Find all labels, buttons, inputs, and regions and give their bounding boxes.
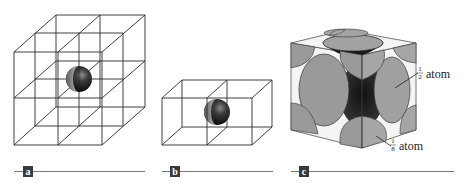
half-atom-label: 1 2 atom <box>417 65 451 81</box>
panel-c-rule <box>291 171 454 172</box>
svg-text:atom: atom <box>399 139 424 153</box>
panel-b-shared-atom <box>204 99 230 125</box>
svg-text:1: 1 <box>418 65 422 73</box>
svg-text:2: 2 <box>418 73 422 81</box>
svg-text:1: 1 <box>391 137 395 145</box>
panel-a-rule <box>14 171 145 172</box>
panel-a-badge: a <box>23 166 33 177</box>
panel-b-front-face <box>162 98 252 145</box>
figure-canvas: 1 2 atom 1 8 atom <box>0 0 463 186</box>
panel-c-fcc-cube <box>291 29 416 148</box>
panel-a-central-atom <box>66 66 92 92</box>
svg-text:atom: atom <box>426 67 451 81</box>
eighth-atom-label: 1 8 atom <box>390 137 424 153</box>
panel-b-badge: b <box>170 166 180 177</box>
panel-c-badge: c <box>299 166 309 177</box>
svg-text:8: 8 <box>391 145 395 153</box>
